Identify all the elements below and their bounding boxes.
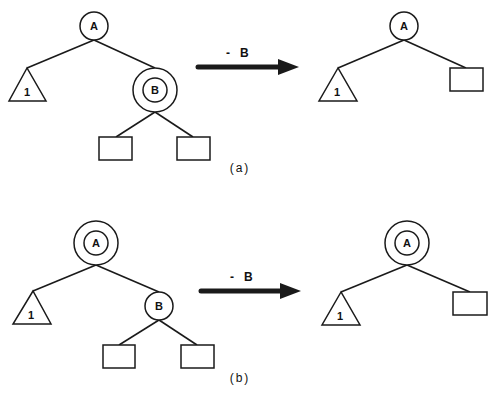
edge-a-to-subtree-1 <box>33 265 96 291</box>
node-a: A <box>390 12 418 40</box>
edge-a-to-subtree-1 <box>338 40 404 68</box>
leaf-box <box>453 292 487 315</box>
edge-b-to-left-leaf <box>119 320 159 345</box>
arrow-head-icon <box>278 59 299 75</box>
node-a-marked: A <box>74 221 118 265</box>
panel-a: A 1 B - B A <box>9 12 483 175</box>
node-a-label: A <box>403 237 411 249</box>
node-a: A <box>80 12 108 40</box>
operation-label: - B <box>226 46 249 60</box>
subtree-1-label: 1 <box>28 309 34 321</box>
caption-a: (a) <box>230 161 251 175</box>
leaf-box <box>450 68 483 91</box>
panel-b-after-tree: A 1 <box>322 221 487 325</box>
edge-b-to-left-leaf <box>116 112 155 137</box>
node-a-marked: A <box>385 221 429 265</box>
subtree-1-triangle: 1 <box>9 68 46 101</box>
subtree-1-label: 1 <box>24 86 30 98</box>
node-a-label: A <box>90 20 98 32</box>
leaf-box-left <box>99 137 132 160</box>
panel-b: A 1 B - B A <box>13 221 487 385</box>
panel-a-before-tree: A 1 B <box>9 12 210 160</box>
operation-label: - B <box>230 270 253 284</box>
subtree-1-triangle: 1 <box>319 68 357 101</box>
node-a-label: A <box>92 237 100 249</box>
node-b-label: B <box>155 300 163 312</box>
edge-b-to-right-leaf <box>155 112 193 137</box>
tree-deletion-diagram: A 1 B - B A <box>0 0 502 398</box>
node-b: B <box>145 292 173 320</box>
edge-a-to-subtree-1 <box>27 40 94 68</box>
subtree-1-label: 1 <box>337 310 343 322</box>
subtree-1-triangle: 1 <box>322 292 360 325</box>
arrow-head-icon <box>280 283 301 299</box>
leaf-box-left <box>103 345 135 368</box>
subtree-1-triangle: 1 <box>13 291 51 324</box>
node-b-marked: B <box>133 68 177 112</box>
edge-a-to-b <box>96 265 159 292</box>
edge-a-to-b <box>94 40 155 68</box>
delete-b-arrow-b: - B <box>201 270 301 299</box>
panel-b-before-tree: A 1 B <box>13 221 214 368</box>
leaf-box-right <box>181 345 214 368</box>
panel-a-after-tree: A 1 <box>319 12 483 101</box>
node-b-label: B <box>151 84 159 96</box>
subtree-1-label: 1 <box>334 86 340 98</box>
caption-b: (b) <box>230 371 251 385</box>
delete-b-arrow-a: - B <box>198 46 299 75</box>
leaf-box-right <box>177 137 210 160</box>
edge-b-to-right-leaf <box>159 320 197 345</box>
edge-a-to-leaf <box>407 265 470 292</box>
edge-a-to-subtree-1 <box>341 265 407 292</box>
edge-a-to-leaf <box>404 40 466 68</box>
node-a-label: A <box>400 20 408 32</box>
